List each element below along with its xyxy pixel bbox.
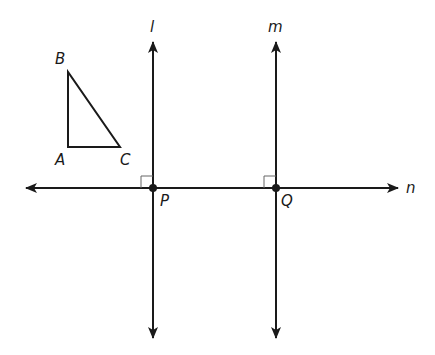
line-m: m [268,18,283,338]
line-l: l [150,18,155,338]
point-label-p: P [160,192,170,210]
line-label-l: l [150,18,155,36]
line-n: n [26,179,416,197]
triangle-abc: B A C [54,50,131,169]
geometry-diagram: B A C n l m P Q [0,0,435,355]
vertex-label-c: C [120,151,131,169]
vertex-label-a: A [54,151,65,169]
point-label-q: Q [281,192,293,210]
vertex-label-b: B [55,50,65,68]
line-label-n: n [406,179,416,197]
line-label-m: m [268,18,283,36]
